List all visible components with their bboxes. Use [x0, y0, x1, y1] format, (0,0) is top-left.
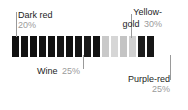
callout-dark-red-percent: 20%	[18, 20, 53, 30]
leader-dark-red	[16, 12, 17, 37]
leader-purple-red	[170, 55, 171, 80]
callout-purple-red-percent: 25%	[108, 84, 170, 94]
wine-stripe-2	[57, 36, 64, 57]
color-distribution-chart: Dark red 20% Yellow- gold 30% Wine 25% P…	[0, 0, 188, 110]
purple-red-stripe-1	[138, 36, 145, 57]
wine-stripe-3	[66, 36, 73, 57]
leader-wine	[83, 55, 84, 69]
dark-red-stripe-2	[21, 36, 28, 57]
callout-wine-label: Wine	[37, 66, 58, 76]
callout-yellow-gold-label-line2: gold	[123, 19, 140, 29]
dark-red-stripe-3	[30, 36, 37, 57]
yellow-gold-stripe-4	[129, 36, 136, 57]
yellow-gold-stripe-2	[111, 36, 118, 57]
segmented-color-bar	[12, 36, 178, 57]
callout-yellow-gold-label-line1: Yellow-	[96, 7, 162, 17]
purple-red-stripe-2	[147, 36, 154, 57]
wine-stripe-4	[75, 36, 82, 57]
callout-dark-red: Dark red 20%	[18, 8, 53, 30]
callout-yellow-gold: Yellow- gold 30%	[96, 7, 162, 29]
dark-red-stripe-4	[39, 36, 46, 57]
dark-red-stripe-1	[12, 36, 19, 57]
callout-wine: Wine 25%	[30, 64, 80, 76]
wine-stripe-1	[48, 36, 55, 57]
yellow-gold-stripe-3	[120, 36, 127, 57]
callout-yellow-gold-percent: 30%	[144, 19, 162, 29]
callout-dark-red-label: Dark red	[18, 10, 53, 20]
yellow-gold-stripe-1	[102, 36, 109, 57]
callout-wine-percent: 25%	[62, 66, 80, 76]
callout-purple-red-label: Purple-red	[108, 74, 170, 84]
callout-purple-red: Purple-red 25%	[108, 74, 170, 94]
wine-stripe-5	[84, 36, 91, 57]
wine-stripe-6	[93, 36, 100, 57]
